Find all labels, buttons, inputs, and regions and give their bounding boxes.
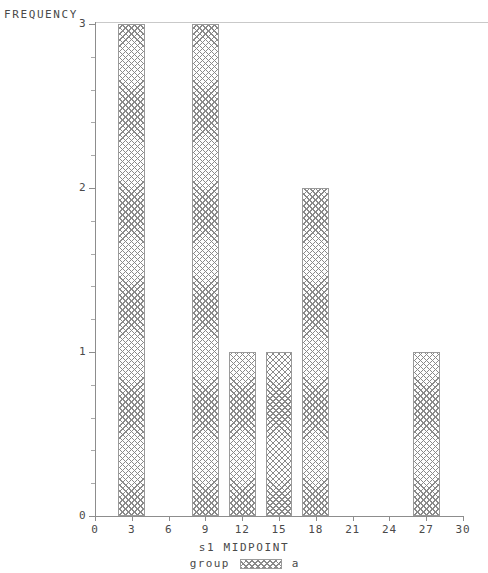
y-tick-minor	[91, 122, 95, 123]
histogram-bar	[266, 352, 293, 516]
x-tick-label: 15	[259, 523, 299, 536]
y-axis-line	[95, 22, 96, 517]
y-tick-minor	[91, 57, 95, 58]
y-tick-minor	[91, 418, 95, 419]
plot-frame-top-border	[95, 22, 488, 23]
x-tick-label: 30	[443, 523, 483, 536]
x-tick-major	[426, 516, 427, 521]
y-tick-minor	[91, 483, 95, 484]
x-tick-label: 21	[333, 523, 373, 536]
legend-swatch-a-icon	[240, 559, 282, 569]
x-tick-major	[389, 516, 390, 521]
x-tick-label: 3	[112, 523, 152, 536]
x-tick-major	[132, 516, 133, 521]
x-tick-major	[279, 516, 280, 521]
y-tick-major	[89, 24, 95, 25]
x-tick-label: 12	[222, 523, 262, 536]
histogram-bar	[302, 188, 329, 516]
y-tick-major	[89, 188, 95, 189]
y-tick-minor	[91, 155, 95, 156]
x-tick-major	[463, 516, 464, 521]
y-tick-minor	[91, 286, 95, 287]
histogram-bar	[229, 352, 256, 516]
y-tick-minor	[91, 221, 95, 222]
x-tick-label: 0	[75, 523, 115, 536]
y-tick-label-text: 1	[60, 346, 86, 357]
y-tick-major	[89, 352, 95, 353]
x-tick-major	[353, 516, 354, 521]
chart-legend: group a	[0, 557, 488, 570]
y-tick-label: 3	[60, 18, 86, 29]
x-tick-label: 18	[296, 523, 336, 536]
y-tick-minor	[91, 385, 95, 386]
histogram-bar	[192, 24, 219, 516]
y-tick-minor	[91, 450, 95, 451]
y-tick-label: 2	[60, 182, 86, 193]
y-tick-label-text: 3	[60, 18, 86, 29]
x-tick-label: 9	[185, 523, 225, 536]
y-tick-minor	[91, 90, 95, 91]
legend-group-label: group	[190, 557, 230, 570]
x-tick-major	[242, 516, 243, 521]
histogram-bar	[118, 24, 145, 516]
x-tick-major	[169, 516, 170, 521]
legend-value-label-a: a	[292, 557, 299, 570]
histogram-bar	[413, 352, 440, 516]
y-tick-label-text: 0	[60, 510, 86, 521]
y-tick-minor	[91, 319, 95, 320]
y-tick-minor	[91, 254, 95, 255]
x-tick-major	[316, 516, 317, 521]
histogram-chart: FREQUENCY 0123 036912151821242730 s1 MID…	[0, 0, 488, 573]
x-axis-title: s1 MIDPOINT	[0, 541, 488, 554]
y-tick-label-text: 2	[60, 182, 86, 193]
x-tick-label: 24	[369, 523, 409, 536]
x-tick-label: 6	[149, 523, 189, 536]
y-tick-label: 0	[60, 510, 86, 521]
y-tick-label: 1	[60, 346, 86, 357]
x-tick-label: 27	[406, 523, 446, 536]
x-tick-major	[95, 516, 96, 521]
x-tick-major	[205, 516, 206, 521]
